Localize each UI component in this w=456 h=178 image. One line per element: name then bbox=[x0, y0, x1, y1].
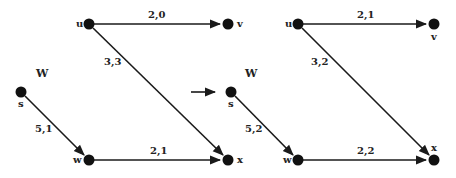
edge-u-x bbox=[302, 28, 429, 155]
edge-label-u-v: 2,1 bbox=[357, 9, 374, 21]
node-label-u: u bbox=[76, 18, 83, 29]
edge-label-w-x: 2,1 bbox=[150, 145, 167, 157]
node-label-u: u bbox=[285, 18, 292, 29]
node-label-x: x bbox=[431, 142, 438, 153]
flow-diagram: W 2,0 3,3 5,1 2,1 u v s w x W 2,1 3,2 5,… bbox=[0, 0, 456, 178]
set-label-w: W bbox=[35, 67, 49, 80]
node-w bbox=[293, 155, 304, 166]
node-label-x: x bbox=[237, 154, 244, 165]
node-label-s: s bbox=[18, 98, 24, 109]
node-label-s: s bbox=[228, 98, 234, 109]
node-v bbox=[223, 19, 234, 30]
right-graph: W 2,1 3,2 5,2 2,2 u v s w x bbox=[226, 9, 440, 166]
node-label-v: v bbox=[236, 18, 244, 29]
node-x bbox=[223, 155, 234, 166]
edge-label-u-x: 3,3 bbox=[104, 56, 121, 68]
node-u bbox=[84, 19, 95, 30]
edge-label-u-x: 3,2 bbox=[311, 56, 328, 68]
edge-label-u-v: 2,0 bbox=[148, 9, 165, 21]
node-v bbox=[429, 19, 440, 30]
node-label-w: w bbox=[72, 154, 82, 165]
node-u bbox=[293, 19, 304, 30]
node-w bbox=[84, 155, 95, 166]
node-label-v: v bbox=[430, 31, 438, 42]
edge-s-w bbox=[25, 96, 84, 155]
edge-label-w-x: 2,2 bbox=[357, 145, 374, 157]
edge-label-s-w: 5,1 bbox=[35, 123, 52, 135]
node-s bbox=[16, 87, 27, 98]
set-label-w: W bbox=[244, 67, 258, 80]
edge-label-s-w: 5,2 bbox=[245, 123, 262, 135]
node-s bbox=[226, 87, 237, 98]
node-x bbox=[429, 155, 440, 166]
node-label-w: w bbox=[282, 154, 292, 165]
edge-s-w bbox=[235, 96, 293, 155]
left-graph: W 2,0 3,3 5,1 2,1 u v s w x bbox=[16, 9, 245, 166]
